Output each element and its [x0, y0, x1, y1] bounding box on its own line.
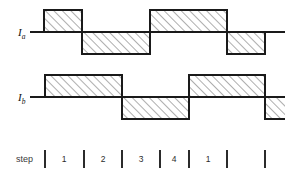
- trace-ib: Ib: [17, 75, 285, 119]
- waveform-block: [150, 10, 227, 32]
- trace-label-subscript: a: [22, 32, 26, 41]
- step-number: 3: [139, 154, 144, 164]
- waveform-block: [265, 97, 285, 119]
- waveform-block: [82, 32, 150, 54]
- step-number: 1: [62, 154, 67, 164]
- trace-label-subscript: b: [22, 97, 26, 106]
- trace-ia: Ia: [17, 10, 285, 54]
- waveform-block: [122, 97, 189, 119]
- step-axis: step12341: [16, 150, 265, 168]
- waveform-block: [189, 75, 265, 97]
- waveform-block: [227, 32, 265, 54]
- trace-label: Ib: [17, 91, 26, 106]
- stepper-current-waveform-svg: Ia Ib step12341: [0, 0, 293, 173]
- waveform-block: [44, 10, 82, 32]
- step-number: 4: [172, 154, 177, 164]
- step-number: 1: [206, 154, 211, 164]
- step-axis-label: step: [16, 154, 33, 164]
- trace-label: Ia: [17, 26, 26, 41]
- waveform-block: [45, 75, 122, 97]
- waveform-figure: Ia Ib step12341: [0, 0, 293, 173]
- step-number: 2: [101, 154, 106, 164]
